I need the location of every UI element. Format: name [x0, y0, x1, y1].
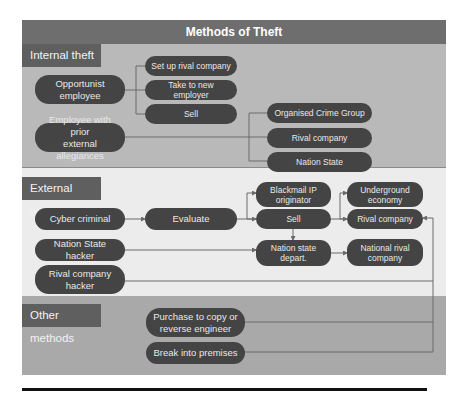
node-organised-crime-group: Organised Crime Group [267, 103, 372, 123]
node-rival-company-internal: Rival company [267, 128, 372, 148]
node-rival-company-hacker: Rival company hacker [35, 265, 125, 294]
node-purchase-to-copy: Purchase to copy or reverse engineer [146, 308, 245, 337]
node-nation-state-hacker: Nation State hacker [35, 239, 125, 261]
node-nation-state: Nation State [267, 152, 372, 172]
node-break-into-premises: Break into premises [146, 342, 245, 364]
node-underground-economy: Underground economy [347, 182, 423, 207]
node-sell-external: Sell [256, 209, 331, 229]
node-national-rival-company: National rival company [347, 239, 423, 266]
node-employee-prior-allegiances: Employee with prior external allegiances [35, 123, 125, 152]
node-evaluate: Evaluate [145, 208, 237, 230]
node-blackmail-ip-originator: Blackmail IP originator [256, 182, 331, 207]
horizontal-rule [22, 388, 427, 391]
node-sell-internal: Sell [145, 104, 237, 124]
node-take-to-new-employer: Take to new employer [145, 80, 237, 100]
node-opportunist-employee: Opportunist employee [35, 75, 125, 104]
node-rival-company-external: Rival company [347, 209, 423, 229]
node-cyber-criminal: Cyber criminal [35, 208, 125, 230]
node-set-up-rival-company: Set up rival company [145, 56, 237, 76]
node-nation-state-depart: Nation state depart. [256, 240, 331, 266]
